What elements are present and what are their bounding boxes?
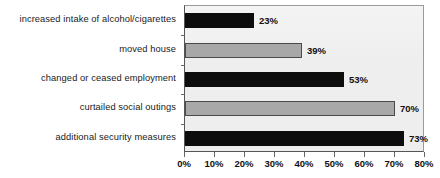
category-label: additional security measures	[0, 132, 176, 143]
y-axis-tick	[181, 124, 185, 125]
bar-value-label: 23%	[259, 14, 278, 27]
bar-value-label: 53%	[349, 73, 368, 86]
x-axis-tick-label: 0%	[169, 158, 199, 170]
bar	[185, 131, 404, 146]
bar-row: 73%	[185, 131, 425, 146]
bar-value-label: 73%	[409, 132, 428, 145]
x-axis-tick-label: 30%	[259, 158, 289, 170]
y-axis-tick	[181, 65, 185, 66]
bar-row: 70%	[185, 101, 425, 116]
x-axis-tick	[214, 152, 215, 157]
x-axis-tick-label: 50%	[319, 158, 349, 170]
bar	[185, 13, 254, 28]
category-label: moved house	[0, 44, 176, 55]
bar-row: 39%	[185, 43, 425, 58]
x-axis-tick-label: 60%	[349, 158, 379, 170]
bar-value-label: 39%	[307, 44, 326, 57]
x-axis-tick	[304, 152, 305, 157]
x-axis-tick-label: 20%	[229, 158, 259, 170]
x-axis-tick-label: 40%	[289, 158, 319, 170]
x-axis-tick-label: 70%	[379, 158, 409, 170]
x-axis-tick-label: 10%	[199, 158, 229, 170]
x-axis-tick	[244, 152, 245, 157]
bar	[185, 72, 344, 87]
x-axis-tick	[394, 152, 395, 157]
category-label: curtailed social outings	[0, 102, 176, 113]
bar-chart: increased intake of alcohol/cigarettes m…	[0, 0, 440, 178]
x-axis-tick	[274, 152, 275, 157]
category-axis-labels: increased intake of alcohol/cigarettes m…	[0, 5, 180, 152]
bar-row: 23%	[185, 13, 425, 28]
value-axis: 0%10%20%30%40%50%60%70%80%	[184, 152, 425, 178]
category-label: changed or ceased employment	[0, 73, 176, 84]
x-axis-tick	[334, 152, 335, 157]
x-axis-tick-label: 80%	[409, 158, 439, 170]
x-axis-tick	[184, 152, 185, 157]
category-label: increased intake of alcohol/cigarettes	[0, 14, 176, 25]
bar-value-label: 70%	[400, 102, 419, 115]
y-axis-tick	[181, 94, 185, 95]
x-axis-tick	[364, 152, 365, 157]
x-axis-tick	[424, 152, 425, 157]
bar	[185, 101, 395, 116]
y-axis-tick	[181, 35, 185, 36]
plot-area: 23% 39% 53% 70% 73%	[184, 5, 424, 152]
bar-row: 53%	[185, 72, 425, 87]
bar	[185, 43, 302, 58]
